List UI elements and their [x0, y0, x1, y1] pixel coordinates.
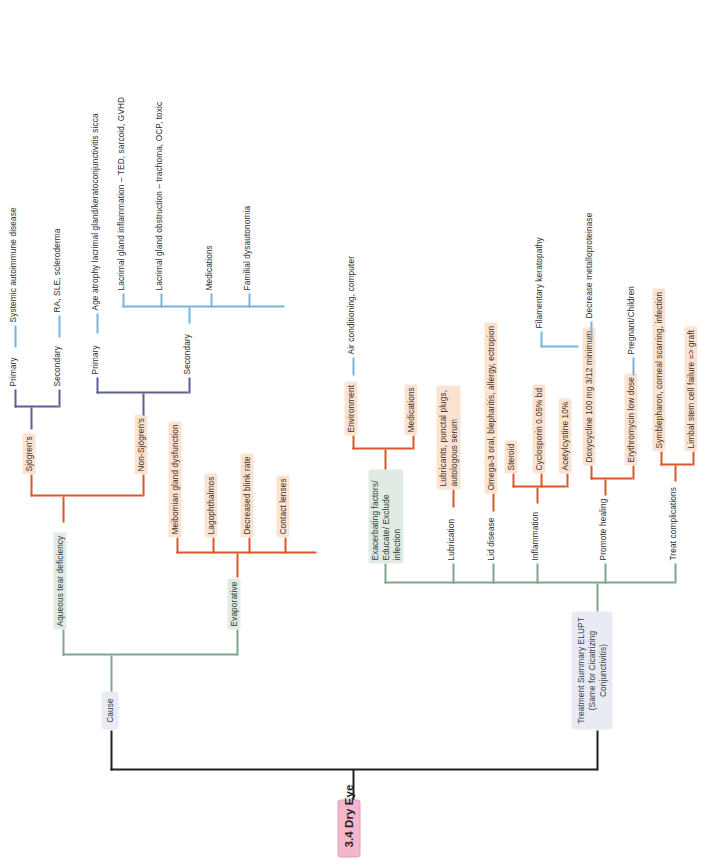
node-acetylcystine[interactable]: Acetylcystine 10% [558, 398, 571, 473]
node-steroid[interactable]: Steroid [504, 440, 517, 473]
ns-primary-arm [96, 377, 98, 393]
tx-p-2-arm [632, 465, 634, 479]
node-non-sjogrens[interactable]: Non-Sjögren's [134, 414, 147, 474]
tx-e-out [384, 449, 386, 469]
tx-l-arm [452, 563, 454, 583]
node-lid-disease[interactable]: Lid disease [484, 514, 497, 563]
node-lubrication[interactable]: Lubrication [444, 515, 457, 563]
nonsjogrens-out [142, 393, 144, 415]
root-node[interactable]: 3.4 Dry Eye [337, 799, 360, 857]
node-environment[interactable]: Environment [344, 381, 357, 435]
cause-spine [62, 653, 237, 655]
node-pregnant-children[interactable]: Pregnant/Children [624, 282, 637, 357]
node-lubricants-punctal-plugs[interactable]: Lubricants, punctal plugs, autologous se… [436, 385, 460, 489]
ns-secondary-spine [122, 305, 284, 307]
tx-p-2a-arm [632, 357, 634, 375]
tx-i-arm [536, 563, 538, 583]
tx-e-1-arm [352, 435, 354, 449]
sjogrens-arm [30, 474, 32, 496]
node-lacrimal-gland-inflammation[interactable]: Lacrimal gland inflammation – TED, sarco… [114, 93, 127, 293]
node-ra-sle-scleroderma[interactable]: RA, SLE, scleroderma [50, 225, 63, 315]
ns-sec-4-arm [248, 293, 250, 307]
tx-p-out [604, 479, 606, 495]
node-medications-cause[interactable]: Medications [202, 242, 215, 293]
ns-sec-2-arm [160, 293, 162, 307]
tx-p-1a-arm [590, 321, 592, 339]
node-meibomian-gland-dysfunction[interactable]: Meibomian gland dysfunction [168, 421, 181, 537]
sjogrens-spine [14, 405, 58, 407]
filamentary-arm [540, 331, 542, 347]
sjogrens-out [30, 407, 32, 429]
node-erythromycin[interactable]: Erythromycin low dose [624, 373, 637, 465]
node-contact-lenses[interactable]: Contact lenses [276, 475, 289, 537]
tx-t-arm [674, 563, 676, 583]
ns-sec-1-arm [122, 293, 124, 307]
tx-t-2-arm [692, 451, 694, 465]
node-promote-healing[interactable]: Promote healing [596, 495, 609, 563]
node-sjogrens-primary[interactable]: Primary [6, 354, 19, 389]
tx-i-spine [512, 485, 566, 487]
mindmap-canvas: 3.4 Dry Eye Cause Treatment Summary ELUP… [0, 0, 705, 867]
node-treat-complications[interactable]: Treat complications [666, 483, 679, 563]
node-medications-treatment[interactable]: Medications [404, 384, 417, 435]
node-cyclosporin[interactable]: Cyclosporin 0.05% bd [532, 384, 545, 473]
evaporative-spine [176, 551, 316, 553]
node-filamentary-keratopathy[interactable]: Filamentary keratopathy [532, 234, 545, 331]
evaporative-arm [236, 629, 238, 655]
node-air-conditioning-computer[interactable]: Air conditioning, computer [344, 252, 357, 357]
node-doxycycline[interactable]: Doxycycline 100 mg 3/12 minimum [582, 327, 595, 465]
node-sjogrens-secondary[interactable]: Secondary [50, 342, 63, 389]
node-decrease-metalloproteinase[interactable]: Decrease metalloproteinase [582, 209, 595, 321]
node-lacrimal-gland-obstruction[interactable]: Lacrimal gland obstruction – trachoma, O… [152, 98, 165, 293]
ns-sec-3-arm [210, 293, 212, 307]
node-exacerbating-factors[interactable]: Exacerbating factors/ Educate/ Exclude i… [368, 469, 403, 563]
evap-4-arm [284, 537, 286, 553]
sj-secondary-arm [58, 389, 60, 407]
sj-secondary-out [58, 315, 60, 337]
nonsjogrens-spine [96, 391, 188, 393]
node-symblepharon[interactable]: Symblepharon, corneal scarring, infectio… [652, 288, 665, 451]
diagram-page: 3.4 Dry Eye Cause Treatment Summary ELUP… [0, 0, 705, 867]
tx-e-2-arm [412, 435, 414, 449]
tx-e-spine [352, 447, 412, 449]
tx-i-3-arm [566, 473, 568, 487]
node-aqueous-tear-deficiency[interactable]: Aqueous tear deficiency [53, 532, 66, 629]
tx-i-2-arm [540, 473, 542, 487]
evap-3-arm [248, 537, 250, 553]
aqueous-arm [62, 629, 64, 655]
node-age-atrophy-lacrimal[interactable]: Age atrophy lacrimal gland/keratoconjunc… [88, 110, 101, 313]
aqueous-out [62, 496, 64, 522]
node-inflammation[interactable]: Inflammation [528, 508, 541, 563]
tx-e-1a-arm [352, 357, 354, 375]
tx-i-out [536, 487, 538, 503]
treatment-out [596, 583, 598, 611]
node-sjogrens[interactable]: Sjögren's [22, 433, 35, 474]
aqueous-spine [30, 494, 142, 496]
node-evaporative[interactable]: Evaporative [227, 578, 240, 629]
node-limbal-stem-cell-failure[interactable]: Limbal stem cell failure => graft [684, 326, 697, 451]
treatment-spine [384, 581, 674, 583]
node-cause[interactable]: Cause [101, 691, 118, 729]
filamentary-spine [540, 345, 578, 347]
trunk-treatment-arm [596, 730, 598, 770]
node-systemic-autoimmune-disease[interactable]: Systemic autoimmune disease [6, 204, 19, 325]
tx-t-spine [660, 463, 692, 465]
evaporative-out [236, 553, 238, 577]
node-decreased-blink-rate[interactable]: Decreased blink rate [240, 453, 253, 537]
node-familial-dysautonomia[interactable]: Familial dysautonomia [240, 202, 253, 293]
tx-p-arm [604, 563, 606, 583]
node-treatment-summary[interactable]: Treatment Summary ELUPT (Same for Cicatr… [571, 611, 612, 729]
tx-t-1-arm [660, 451, 662, 465]
node-nonsjogrens-secondary[interactable]: Secondary [180, 330, 193, 377]
tx-t-out [674, 465, 676, 481]
node-omega3-blepharitis[interactable]: Omega-3 oral, blepharitis, allergy, ectr… [484, 322, 497, 493]
node-lagophthalmos[interactable]: Lagophthalmos [204, 473, 217, 537]
evap-1-arm [176, 537, 178, 553]
tx-lid-arm [492, 563, 494, 583]
ns-primary-out [96, 313, 98, 333]
evap-2-arm [212, 537, 214, 553]
trunk-cause-arm [110, 730, 112, 770]
ns-secondary-arm [188, 377, 190, 393]
tx-i-1-arm [512, 473, 514, 487]
node-nonsjogrens-primary[interactable]: Primary [88, 342, 101, 377]
